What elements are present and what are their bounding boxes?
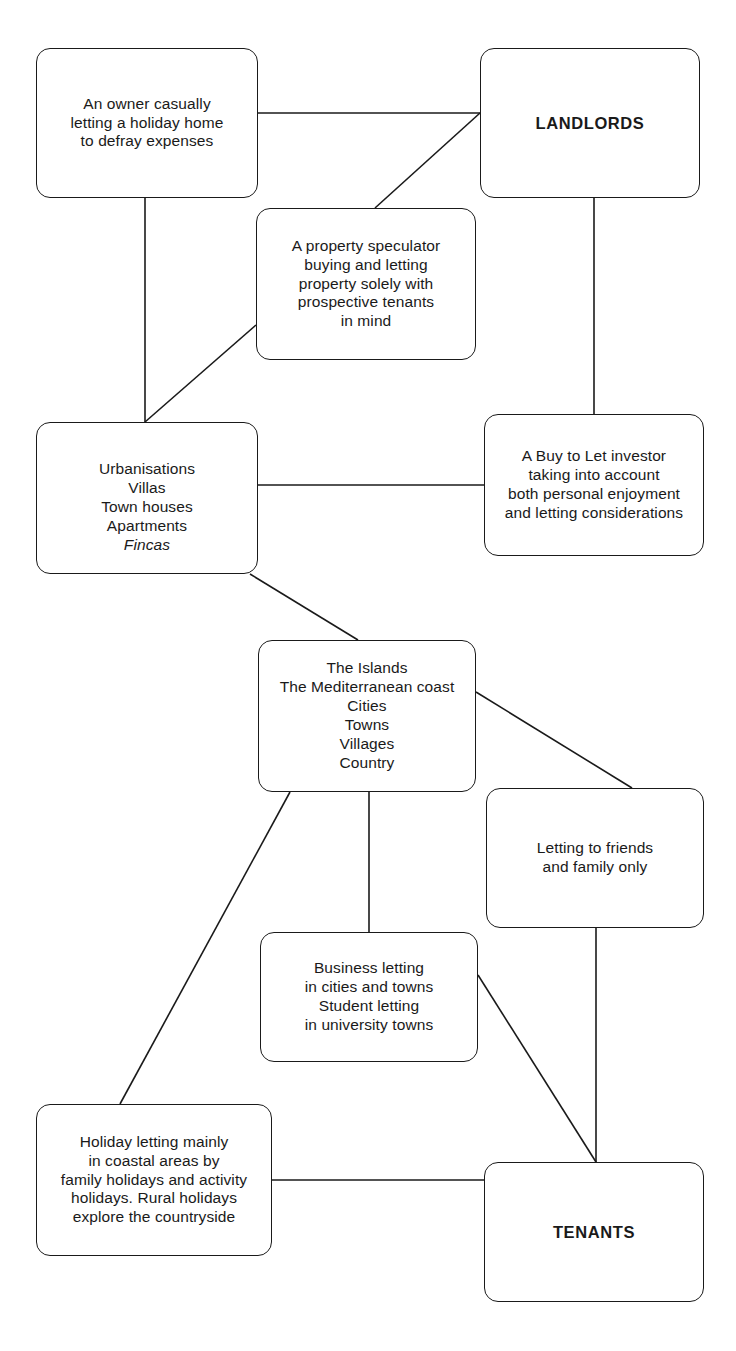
connector-business-student-to-tenants bbox=[478, 975, 596, 1162]
node-owner-casual-label: An owner casually letting a holiday home… bbox=[37, 95, 257, 152]
node-property-types-list: Urbanisations Villas Town houses Apartme… bbox=[99, 460, 195, 534]
node-holiday-letting: Holiday letting mainly in coastal areas … bbox=[36, 1104, 272, 1256]
node-business-student: Business letting in cities and towns Stu… bbox=[260, 932, 478, 1062]
node-holiday-letting-label: Holiday letting mainly in coastal areas … bbox=[37, 1133, 271, 1228]
node-property-speculator: A property speculator buying and letting… bbox=[256, 208, 476, 360]
connector-speculator-to-property-types bbox=[145, 325, 256, 422]
node-landlords: LANDLORDS bbox=[480, 48, 700, 198]
node-tenants: TENANTS bbox=[484, 1162, 704, 1302]
node-friends-family: Letting to friends and family only bbox=[486, 788, 704, 928]
node-buy-to-let: A Buy to Let investor taking into accoun… bbox=[484, 414, 704, 556]
connector-locations-to-friends-family bbox=[476, 692, 632, 788]
diagram-canvas: An owner casually letting a holiday home… bbox=[0, 0, 736, 1351]
node-property-types-fincas: Fincas bbox=[124, 536, 170, 553]
node-business-student-label: Business letting in cities and towns Stu… bbox=[261, 959, 477, 1035]
node-property-types-label: Urbanisations Villas Town houses Apartme… bbox=[37, 441, 257, 554]
node-locations-label: The Islands The Mediterranean coast Citi… bbox=[259, 659, 475, 772]
node-tenants-label: TENANTS bbox=[485, 1222, 703, 1242]
node-landlords-label: LANDLORDS bbox=[481, 113, 699, 133]
node-friends-family-label: Letting to friends and family only bbox=[487, 839, 703, 877]
node-property-speculator-label: A property speculator buying and letting… bbox=[257, 237, 475, 332]
connector-landlords-to-speculator bbox=[375, 113, 480, 208]
node-owner-casual: An owner casually letting a holiday home… bbox=[36, 48, 258, 198]
node-locations: The Islands The Mediterranean coast Citi… bbox=[258, 640, 476, 792]
node-buy-to-let-label: A Buy to Let investor taking into accoun… bbox=[485, 447, 703, 523]
connector-property-types-to-locations bbox=[250, 574, 358, 640]
node-property-types: Urbanisations Villas Town houses Apartme… bbox=[36, 422, 258, 574]
